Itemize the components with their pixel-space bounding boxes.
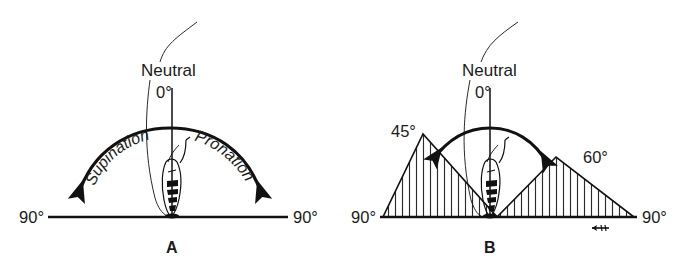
artist-signature-mark — [592, 225, 609, 231]
panel-b: Neutral 0° 45° 60° 90° 90° B — [351, 22, 667, 256]
panel-b-neutral-leader-top — [481, 22, 518, 62]
panel-b-right-shaded-region — [497, 157, 634, 217]
panel-a-left-limit-label: 90° — [19, 208, 44, 226]
panel-b-left-shaded-region — [383, 134, 497, 217]
panel-a-neutral-degrees: 0° — [156, 83, 172, 101]
panel-b-right-limit-label: 90° — [642, 208, 667, 226]
panel-b-neutral-label: Neutral — [462, 61, 517, 80]
panel-a-neutral-label: Neutral — [141, 61, 196, 80]
figure-root: Supination Pronation Neutral 0° 90° 90° … — [0, 0, 674, 272]
panel-a-neutral-leader-top — [160, 22, 197, 62]
panel-b-letter: B — [484, 239, 496, 256]
forearm-rotation-figure: Supination Pronation Neutral 0° 90° 90° … — [0, 0, 674, 272]
panel-a-supination-label: Supination — [82, 126, 151, 188]
panel-b-left-limit-label: 90° — [351, 208, 376, 226]
panel-a: Supination Pronation Neutral 0° 90° 90° … — [19, 22, 318, 256]
panel-a-right-limit-label: 90° — [293, 208, 318, 226]
panel-a-pronation-label: Pronation — [193, 127, 258, 184]
panel-b-right-restricted-label: 60° — [583, 148, 608, 166]
panel-a-forearm-illustration — [162, 137, 190, 218]
panel-a-letter: A — [166, 239, 178, 256]
panel-b-left-restricted-label: 45° — [391, 122, 416, 140]
panel-b-neutral-degrees: 0° — [475, 83, 491, 101]
